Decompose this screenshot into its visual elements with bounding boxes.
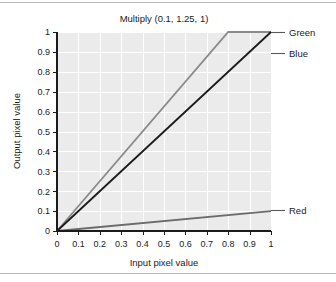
y-tick-label: 0.5 xyxy=(37,127,50,137)
legend-label-green: Green xyxy=(289,27,315,38)
x-axis-tick-labels: 00.10.20.30.40.50.60.70.80.91 xyxy=(54,239,273,249)
y-tick-label: 0 xyxy=(45,226,50,236)
y-tick-label: 0.4 xyxy=(37,147,50,157)
x-tick-label: 0.8 xyxy=(222,239,235,249)
y-axis-title: Output pixel value xyxy=(11,93,22,169)
y-tick-label: 0.7 xyxy=(37,87,50,97)
x-tick-label: 0.1 xyxy=(72,239,85,249)
y-tick-label: 0.3 xyxy=(37,167,50,177)
x-tick-label: 0.3 xyxy=(115,239,128,249)
figure-container: 00.10.20.30.40.50.60.70.80.91 00.10.20.3… xyxy=(0,0,336,282)
y-axis-tick-labels: 00.10.20.30.40.50.60.70.80.91 xyxy=(37,27,50,236)
chart-title: Multiply (0.1, 1.25, 1) xyxy=(120,13,209,24)
x-tick-label: 0 xyxy=(54,239,59,249)
legend-label-blue: Blue xyxy=(289,48,308,59)
y-tick-label: 1 xyxy=(45,27,50,37)
y-tick-label: 0.8 xyxy=(37,67,50,77)
y-tick-label: 0.6 xyxy=(37,107,50,117)
x-tick-label: 0.7 xyxy=(201,239,214,249)
y-tick-label: 0.9 xyxy=(37,47,50,57)
x-tick-label: 1 xyxy=(268,239,273,249)
x-tick-label: 0.4 xyxy=(136,239,149,249)
legend-group: GreenBlueRed xyxy=(271,27,315,216)
transfer-function-chart: 00.10.20.30.40.50.60.70.80.91 00.10.20.3… xyxy=(0,0,336,282)
y-tick-label: 0.2 xyxy=(37,187,50,197)
x-axis-title: Input pixel value xyxy=(130,257,199,268)
x-tick-label: 0.9 xyxy=(243,239,256,249)
y-tick-label: 0.1 xyxy=(37,206,50,216)
x-tick-label: 0.5 xyxy=(158,239,171,249)
legend-label-red: Red xyxy=(289,205,306,216)
x-tick-label: 0.6 xyxy=(179,239,192,249)
x-tick-label: 0.2 xyxy=(94,239,107,249)
